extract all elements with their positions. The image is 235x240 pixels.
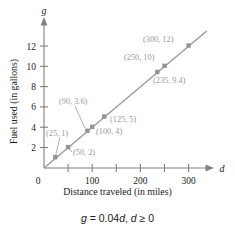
- data-point-label-25-1: (25, 1): [46, 129, 68, 138]
- x-axis-arrow-icon: [206, 165, 215, 172]
- equation-comma: ,: [125, 212, 128, 224]
- equation-domain-var: d: [131, 212, 137, 224]
- data-point-marker-125-5: [102, 114, 106, 118]
- data-point-label-100-4: (100, 4): [96, 127, 123, 136]
- y-axis-title: Fuel used (in gallons): [8, 27, 19, 177]
- data-point-labels: (25, 1) (50, 2) (90, 3.6) (100, 4) (125,…: [46, 35, 186, 157]
- chart-plot-area: 2 4 6 8 10 12 0 100 200 300 g d: [0, 0, 235, 212]
- x-axis-ticks: 0 100 200 300: [36, 164, 196, 186]
- data-point-label-235-94: (235, 9.4): [153, 76, 186, 85]
- data-point-marker-235-94: [155, 70, 159, 74]
- equation-domain-operator: ≥: [140, 212, 146, 224]
- data-point-label-250-10: (250, 10): [124, 53, 155, 62]
- equation-slope: 0.04: [99, 212, 119, 224]
- leader-line-90-36: [75, 106, 85, 128]
- y-tick-label-8: 8: [31, 82, 36, 92]
- leader-line-25-1: [56, 137, 61, 156]
- data-point-marker-100-4: [90, 125, 94, 129]
- x-tick-label-200: 200: [133, 176, 148, 186]
- data-point-label-125-5: (125, 5): [110, 115, 137, 124]
- data-point-label-50-2: (50, 2): [73, 148, 95, 157]
- x-tick-label-100: 100: [85, 176, 100, 186]
- data-point-marker-25-1: [53, 155, 57, 159]
- y-axis-ticks: 2 4 6 8 10 12: [27, 42, 49, 154]
- data-point-marker-250-10: [162, 64, 166, 68]
- y-axis-arrow-icon: [41, 17, 48, 26]
- x-tick-label-0: 0: [36, 176, 41, 186]
- x-axis-variable-label: d: [220, 163, 226, 174]
- equation-domain-value: 0: [148, 212, 154, 224]
- y-tick-label-12: 12: [27, 42, 37, 52]
- data-point-marker-50-2: [66, 145, 70, 149]
- y-axis-variable-label: g: [42, 5, 47, 16]
- data-point-label-90-36: (90, 3.6): [59, 97, 88, 106]
- y-tick-label-4: 4: [31, 123, 36, 133]
- data-point-marker-300-12: [186, 43, 190, 47]
- data-point-label-300-12: (300, 12): [143, 35, 174, 44]
- y-tick-label-10: 10: [27, 62, 37, 72]
- y-tick-label-6: 6: [31, 102, 36, 112]
- x-tick-label-300: 300: [181, 176, 196, 186]
- y-tick-label-2: 2: [31, 143, 36, 153]
- data-point-marker-90-36: [85, 129, 89, 133]
- equation-equals: =: [90, 212, 96, 224]
- fuel-usage-chart-figure: 2 4 6 8 10 12 0 100 200 300 g d: [0, 0, 235, 240]
- x-axis-title: Distance traveled (in miles): [0, 186, 235, 197]
- equation-lhs: g: [81, 212, 87, 224]
- equation-caption: g = 0.04d, d ≥ 0: [0, 212, 235, 224]
